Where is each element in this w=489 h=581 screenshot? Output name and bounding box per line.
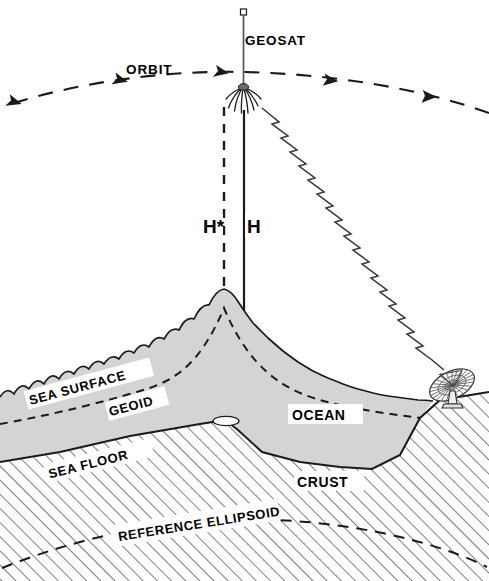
ocean-label-group: OCEAN: [288, 404, 363, 424]
h-star-label: H*: [203, 216, 225, 237]
crust-label: CRUST: [297, 474, 348, 490]
zigzag-signal-beam: [262, 108, 444, 370]
satellite-mast-tip: [241, 9, 247, 15]
h-label: H: [247, 216, 261, 237]
orbit-label: ORBIT: [126, 62, 173, 77]
orbit-dashed-arc: [8, 72, 489, 113]
orbit-arrowheads: [5, 65, 437, 108]
geosat-satellite-icon: GEOSAT: [226, 9, 306, 113]
crust-label-group: CRUST: [294, 471, 364, 491]
ocean-label: OCEAN: [292, 407, 346, 423]
radio-beam-group: [262, 108, 444, 370]
satellite-hub: [239, 84, 249, 91]
satellite-label: GEOSAT: [245, 33, 306, 48]
seamount-cap: [213, 416, 239, 425]
geosat-altimetry-diagram: ORBIT GEOSAT H* H: [0, 0, 489, 581]
